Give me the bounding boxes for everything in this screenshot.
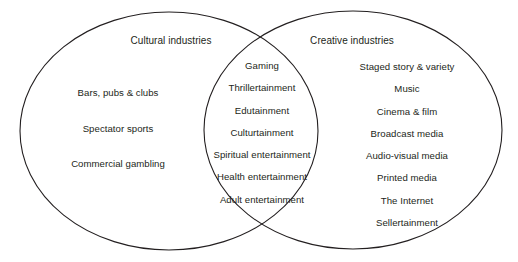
- list-item: Staged story & variety: [360, 61, 455, 72]
- list-item: Edutainment: [235, 105, 289, 116]
- right-only-item-list: Staged story & variety Music Cinema & fi…: [360, 61, 455, 239]
- left-only-item-list: Bars, pubs & clubs Spectator sports Comm…: [71, 87, 165, 194]
- list-item: Adult entertainment: [220, 194, 304, 205]
- list-item: Music: [394, 83, 419, 94]
- list-item: Spiritual entertainment: [213, 149, 310, 160]
- list-item: Broadcast media: [371, 128, 444, 139]
- list-item: Audio-visual media: [366, 150, 448, 161]
- list-item: Bars, pubs & clubs: [78, 87, 159, 98]
- list-item: Thrillertainment: [229, 82, 296, 93]
- right-set-title: Creative industries: [310, 35, 394, 46]
- venn-diagram: Cultural industries Creative industries …: [0, 0, 518, 262]
- list-item: Health entertainment: [217, 171, 307, 182]
- list-item: Culturtainment: [230, 127, 293, 138]
- list-item: Cinema & film: [377, 106, 437, 117]
- list-item: Sellertainment: [376, 217, 438, 228]
- list-item: Printed media: [377, 172, 437, 183]
- list-item: Spectator sports: [83, 123, 154, 134]
- list-item: Gaming: [245, 60, 279, 71]
- left-set-title: Cultural industries: [131, 35, 212, 46]
- list-item: The Internet: [381, 195, 433, 206]
- list-item: Commercial gambling: [71, 158, 165, 169]
- intersection-item-list: Gaming Thrillertainment Edutainment Cult…: [213, 60, 310, 216]
